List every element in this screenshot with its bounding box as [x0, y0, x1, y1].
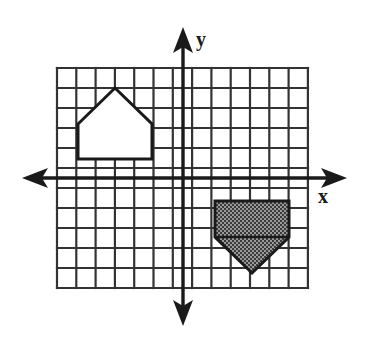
x-axis-label: x [318, 186, 328, 206]
figure-canvas [0, 0, 371, 350]
y-axis-label: y [196, 29, 206, 49]
coordinate-grid-figure: y x [0, 0, 371, 350]
figure-background [0, 0, 371, 350]
